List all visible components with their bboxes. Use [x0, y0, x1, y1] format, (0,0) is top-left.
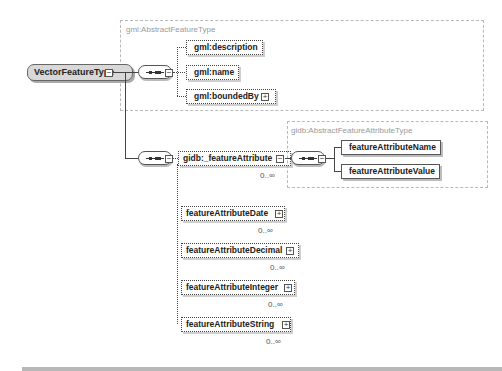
element-gml-name[interactable]: gml:name — [186, 65, 239, 80]
connector-line — [125, 158, 138, 159]
element-label: gml:name — [194, 67, 234, 77]
connector-line — [334, 147, 335, 172]
occurrence-label: 0..∞ — [268, 300, 283, 309]
element-label: featureAttributeDecimal — [186, 245, 282, 255]
root-element-label: VectorFeatureType — [34, 67, 114, 77]
element-featureattributeinteger[interactable]: featureAttributeInteger — [181, 280, 295, 295]
element-label: featureAttributeString — [186, 319, 274, 329]
element-label: featureAttributeInteger — [186, 282, 278, 292]
abstract-feature-attribute-type-label: gidb:AbstractFeatureAttributeType — [291, 126, 412, 135]
connector-line — [177, 96, 186, 97]
occurrence-label: 0..∞ — [258, 226, 273, 235]
collapse-toggle-icon[interactable]: − — [165, 155, 173, 163]
collapse-toggle-icon[interactable]: − — [276, 155, 284, 163]
element-label: featureAttributeValue — [349, 166, 435, 176]
connector-line — [177, 47, 186, 48]
element-label: gml:boundedBy — [194, 91, 259, 101]
collapse-toggle-icon[interactable]: − — [318, 155, 326, 163]
collapse-toggle-icon[interactable]: − — [165, 69, 173, 77]
element-featureattributestring[interactable]: featureAttributeString — [181, 317, 291, 332]
expand-toggle-icon[interactable]: + — [282, 321, 290, 329]
element-featureattributevalue[interactable]: featureAttributeValue — [341, 164, 440, 179]
element-gidb-featureattribute[interactable]: gidb:_featureAttribute — [178, 151, 291, 166]
connector-line — [334, 171, 341, 172]
element-featureattributename[interactable]: featureAttributeName — [341, 140, 441, 155]
expand-toggle-icon[interactable]: + — [286, 247, 294, 255]
horizontal-scrollbar[interactable] — [22, 367, 502, 371]
occurrence-label: 0..∞ — [270, 263, 285, 272]
connector-line — [173, 72, 185, 73]
collapse-toggle-icon[interactable]: − — [105, 69, 113, 77]
element-label: gidb:_featureAttribute — [183, 153, 272, 163]
abstract-feature-type-label: gml:AbstractFeatureType — [126, 25, 215, 34]
expand-toggle-icon[interactable]: + — [284, 284, 292, 292]
connector-line — [326, 158, 334, 159]
connector-line — [125, 72, 126, 159]
element-label: featureAttributeName — [349, 142, 436, 152]
element-gml-description[interactable]: gml:description — [186, 40, 263, 55]
occurrence-label: 0..∞ — [260, 171, 275, 180]
element-label: featureAttributeDate — [186, 208, 268, 218]
expand-toggle-icon[interactable]: + — [275, 210, 283, 218]
connector-line — [177, 47, 178, 96]
expand-toggle-icon[interactable]: + — [261, 93, 269, 101]
substitution-connector-line — [177, 164, 178, 324]
element-featureattributedecimal[interactable]: featureAttributeDecimal — [181, 243, 299, 258]
connector-line — [334, 147, 341, 148]
element-featureattributedate[interactable]: featureAttributeDate — [181, 206, 285, 221]
element-label: gml:description — [194, 42, 258, 52]
occurrence-label: 0..∞ — [266, 337, 281, 346]
